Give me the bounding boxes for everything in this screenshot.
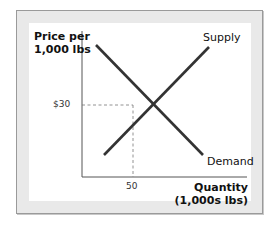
y-axis-label-line2: 1,000 lbs — [34, 43, 91, 56]
demand-line — [96, 45, 203, 155]
supply-label: Supply — [203, 31, 241, 44]
supply-line — [104, 47, 209, 155]
y-axis-label-line1: Price per — [34, 30, 91, 43]
x-axis-label: Quantity (1,000s lbs) — [175, 181, 248, 207]
x-tick-label: 50 — [126, 181, 137, 191]
y-tick-label: $30 — [53, 99, 70, 109]
demand-label: Demand — [207, 155, 254, 168]
y-axis-label: Price per 1,000 lbs — [34, 30, 91, 56]
x-axis-label-line2: (1,000s lbs) — [175, 194, 248, 207]
x-axis-label-line1: Quantity — [175, 181, 248, 194]
